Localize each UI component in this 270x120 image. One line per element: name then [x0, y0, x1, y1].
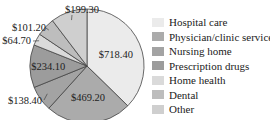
slice-label-physician-clinic-services: $469.20 [71, 92, 105, 103]
legend-swatch [152, 76, 164, 85]
slice-label-dental: $101.20 [12, 22, 46, 33]
legend-swatch [152, 90, 164, 99]
slice-label-prescription-drugs: $234.10 [31, 61, 65, 72]
legend-label: Hospital care [169, 16, 227, 28]
legend-item-nursing-home: Nursing home [152, 44, 270, 59]
legend-label: Home health [169, 74, 226, 86]
legend: Hospital carePhysician/clinic servicesNu… [152, 15, 270, 117]
slice-label-nursing-home: $138.40 [8, 95, 42, 106]
legend-swatch [152, 47, 164, 56]
legend-label: Other [169, 103, 194, 115]
legend-swatch [152, 105, 164, 114]
legend-swatch [152, 61, 164, 70]
legend-item-dental: Dental [152, 88, 270, 103]
legend-item-prescription-drugs: Prescription drugs [152, 59, 270, 74]
legend-item-hospital-care: Hospital care [152, 15, 270, 30]
legend-label: Physician/clinic services [169, 31, 270, 43]
slice-label-home-health: $64.70 [2, 35, 31, 46]
legend-label: Prescription drugs [169, 60, 249, 72]
legend-swatch [152, 18, 164, 27]
legend-label: Nursing home [169, 45, 232, 57]
slice-label-hospital-care: $718.40 [99, 49, 133, 60]
legend-item-other: Other [152, 102, 270, 117]
legend-label: Dental [169, 89, 198, 101]
legend-item-physician-clinic-services: Physician/clinic services [152, 30, 270, 45]
legend-item-home-health: Home health [152, 73, 270, 88]
slice-label-other: $199.30 [65, 4, 99, 15]
legend-swatch [152, 32, 164, 41]
